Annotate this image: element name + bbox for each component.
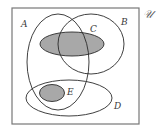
- set-d-outline: [26, 80, 112, 116]
- set-e-label: E: [66, 87, 74, 97]
- set-b-label: B: [120, 17, 128, 27]
- set-a-label: A: [20, 19, 28, 29]
- set-outlines: [26, 14, 124, 116]
- universe-label: 𝒰: [143, 8, 156, 21]
- venn-diagram: 𝒰 ABCDE: [0, 0, 165, 131]
- set-d-label: D: [113, 101, 121, 111]
- set-c-label: C: [90, 24, 97, 34]
